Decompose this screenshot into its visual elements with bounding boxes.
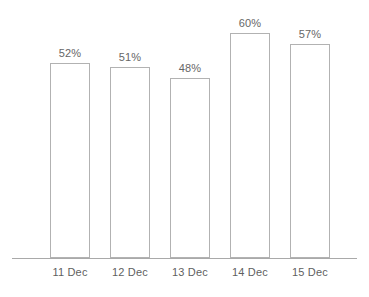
bar-category-label: 11 Dec [36, 266, 104, 278]
bar-rect[interactable] [170, 78, 210, 258]
x-axis-line [12, 258, 357, 259]
bar-category-label: 14 Dec [216, 266, 284, 278]
bar-value-label: 48% [158, 62, 222, 74]
bar-category-label: 15 Dec [276, 266, 344, 278]
bar-value-label: 57% [278, 28, 342, 40]
bar-rect[interactable] [230, 33, 270, 258]
bar-value-label: 60% [218, 17, 282, 29]
bar-group: 52% 11 Dec [50, 63, 90, 258]
bar-rect[interactable] [110, 67, 150, 258]
bar-category-label: 13 Dec [156, 266, 224, 278]
bar-group: 48% 13 Dec [170, 78, 210, 258]
bar-group: 57% 15 Dec [290, 44, 330, 258]
bar-group: 51% 12 Dec [110, 67, 150, 258]
bar-rect[interactable] [290, 44, 330, 258]
plot-area: 52% 11 Dec 51% 12 Dec 48% 13 Dec 60% 14 … [0, 0, 369, 297]
bar-chart: 52% 11 Dec 51% 12 Dec 48% 13 Dec 60% 14 … [0, 0, 369, 297]
bar-category-label: 12 Dec [96, 266, 164, 278]
bar-rect[interactable] [50, 63, 90, 258]
bar-value-label: 51% [98, 51, 162, 63]
bar-group: 60% 14 Dec [230, 33, 270, 258]
bar-value-label: 52% [38, 47, 102, 59]
